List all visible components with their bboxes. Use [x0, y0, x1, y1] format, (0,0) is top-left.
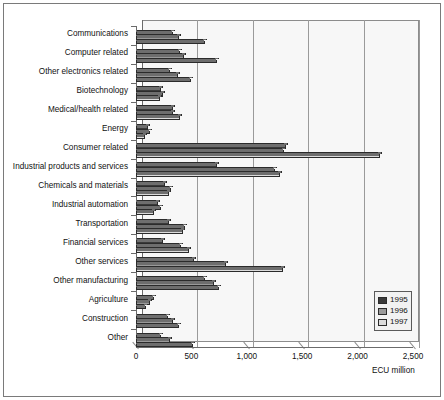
- category-label: Other electronics related: [39, 67, 128, 77]
- bar-1997: [136, 268, 283, 272]
- bar-side-face: [144, 304, 148, 306]
- category-tick: [131, 272, 136, 273]
- category-label: Other services: [75, 257, 128, 267]
- category-tick: [131, 329, 136, 330]
- bar-top-face: [137, 86, 160, 90]
- bar-top-face: [137, 337, 169, 341]
- bar-top-face: [137, 247, 188, 251]
- chart-legend: 199519961997: [374, 291, 412, 331]
- bar-1997: [136, 41, 205, 45]
- bar-side-face: [215, 58, 219, 60]
- legend-label: 1996: [390, 307, 408, 315]
- bar-1997: [136, 79, 191, 83]
- category-label: Industrial automation: [52, 200, 128, 210]
- bar-side-face: [273, 167, 277, 169]
- bar-top-face: [137, 243, 180, 247]
- bar-top-face: [137, 72, 177, 76]
- bar-side-face: [182, 53, 186, 55]
- bar-side-face: [159, 333, 163, 335]
- bar-top-face: [137, 34, 178, 38]
- category-label: Other manufacturing: [53, 276, 128, 286]
- x-tick-label: 2,000: [347, 352, 368, 361]
- bar-side-face: [212, 280, 216, 282]
- bar-top-face: [137, 219, 168, 223]
- bar-side-face: [189, 77, 193, 79]
- chart-figure: CommunicationsComputer relatedOther elec…: [0, 0, 444, 400]
- bar-top-face: [137, 323, 178, 327]
- category-tick: [131, 215, 136, 216]
- bar-side-face: [166, 314, 170, 316]
- bar-side-face: [282, 148, 286, 150]
- category-tick: [131, 310, 136, 311]
- category-axis-labels: CommunicationsComputer relatedOther elec…: [0, 26, 132, 348]
- legend-label: 1995: [390, 296, 408, 304]
- category-tick: [131, 121, 136, 122]
- bar-side-face: [171, 105, 175, 107]
- bar-top-face: [137, 342, 192, 346]
- bar-side-face: [217, 285, 221, 287]
- bar-side-face: [181, 228, 185, 230]
- category-tick: [131, 178, 136, 179]
- bar-side-face: [152, 295, 156, 297]
- bar-side-face: [169, 186, 173, 188]
- bar-side-face: [159, 86, 163, 88]
- bar-top-face: [137, 238, 162, 242]
- bar-1997: [136, 154, 380, 158]
- bar-top-face: [137, 314, 167, 318]
- bar-side-face: [168, 68, 172, 70]
- legend-item: 1997: [378, 317, 408, 327]
- category-label: Other: [108, 333, 128, 343]
- bar-side-face: [152, 209, 156, 211]
- bar-top-face: [137, 91, 162, 95]
- bar-top-face: [137, 181, 164, 185]
- bar-side-face: [176, 72, 180, 74]
- bar-top-face: [137, 95, 159, 99]
- x-tick-label: 0: [134, 352, 139, 361]
- bar-top-face: [137, 171, 279, 175]
- bar-top-face: [137, 205, 160, 209]
- bar-top-face: [137, 209, 153, 213]
- bar-top-face: [137, 261, 225, 265]
- bar-1997: [136, 344, 193, 348]
- bar-top-face: [137, 318, 172, 322]
- bar-side-face: [192, 257, 196, 259]
- bar-side-face: [378, 152, 382, 154]
- gridline: [419, 20, 420, 348]
- bar-side-face: [179, 243, 183, 245]
- bar-side-face: [171, 110, 175, 112]
- category-tick: [131, 291, 136, 292]
- bar-1997: [136, 97, 160, 101]
- category-label: Biotechnology: [77, 86, 128, 96]
- bar-top-face: [137, 114, 179, 118]
- bar-side-face: [203, 39, 207, 41]
- bar-side-face: [177, 34, 181, 36]
- bar-1997: [136, 249, 189, 253]
- category-label: Communications: [67, 29, 128, 39]
- bar-top-face: [137, 68, 169, 72]
- bar-top-face: [137, 190, 168, 194]
- bar-1997: [136, 173, 280, 177]
- bar-side-face: [224, 261, 228, 263]
- bar-top-face: [137, 276, 204, 280]
- x-tick-label: 500: [185, 352, 199, 361]
- legend-item: 1996: [378, 306, 408, 316]
- category-tick: [131, 140, 136, 141]
- bar-top-face: [137, 224, 184, 228]
- x-tick-label: 1,000: [237, 352, 258, 361]
- bar-side-face: [167, 219, 171, 221]
- bar-1997: [136, 116, 180, 120]
- category-tick: [131, 234, 136, 235]
- legend-label: 1997: [390, 318, 408, 326]
- category-tick: [131, 253, 136, 254]
- bar-top-face: [137, 280, 213, 284]
- legend-swatch-icon: [378, 297, 387, 304]
- category-tick: [131, 64, 136, 65]
- bar-top-face: [137, 77, 190, 81]
- bar-1997: [136, 325, 179, 329]
- bar-side-face: [178, 114, 182, 116]
- bar-top-face: [137, 49, 179, 53]
- bar-side-face: [171, 30, 175, 32]
- bar-top-face: [137, 105, 172, 109]
- bar-1997: [136, 60, 217, 64]
- category-label: Transportation: [76, 219, 129, 229]
